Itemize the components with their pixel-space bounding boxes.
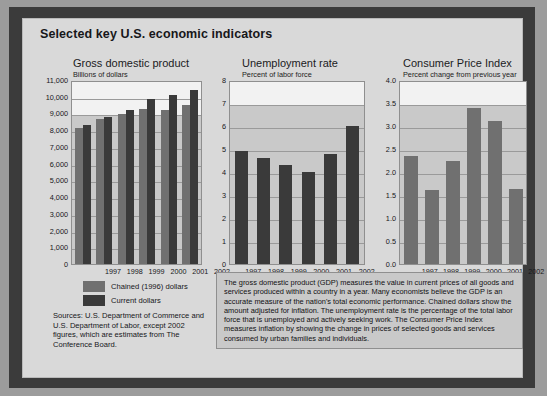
- chart-panel: Selected key U.S. economic indicators Gr…: [22, 18, 523, 378]
- bar-group: [275, 82, 297, 264]
- bar-series-container: [72, 82, 201, 264]
- y-tick-label: 4.0: [386, 77, 396, 85]
- legend-swatch-current: [83, 295, 105, 306]
- plot-wrapper-gdp: 11,00010,0009,0008,0007,0006,0005,0004,0…: [40, 81, 205, 276]
- y-tick-label: 2,000: [50, 228, 68, 236]
- plot-wrapper-unemployment: 876543210 199719981999200020012002: [216, 81, 368, 276]
- bar: [190, 90, 198, 264]
- y-tick-label: 11,000: [46, 77, 68, 85]
- x-axis-gdp: 199719981999200020012002: [102, 267, 233, 276]
- chart-title-unemployment: Unemployment rate: [242, 57, 368, 69]
- y-tick-label: 6: [222, 123, 226, 131]
- bar: [139, 109, 147, 264]
- bar: [182, 105, 190, 264]
- chart-subtitle-gdp: Billions of dollars: [73, 70, 205, 79]
- chart-gross-domestic-product: Gross domestic product Billions of dolla…: [40, 57, 205, 276]
- bar: [235, 151, 248, 264]
- bar: [324, 154, 337, 264]
- y-tick-label: 0.5: [386, 238, 396, 246]
- bar: [104, 117, 112, 264]
- bar: [404, 156, 418, 264]
- bar-group: [137, 82, 159, 264]
- plot-area-unemployment: [229, 81, 365, 265]
- x-tick-label: 2002: [526, 267, 547, 276]
- bar: [83, 125, 91, 264]
- chart-unemployment-rate: Unemployment rate Percent of labor force…: [216, 57, 368, 276]
- bar: [467, 108, 481, 264]
- legend: Chained (1996) dollars Current dollars: [83, 281, 188, 309]
- bar: [279, 165, 292, 264]
- y-tick-label: 8: [222, 77, 226, 85]
- bar-group: [342, 82, 364, 264]
- bar: [425, 190, 439, 264]
- y-tick-label: 3.0: [386, 123, 396, 131]
- bar-group: [252, 82, 274, 264]
- bar: [169, 95, 177, 264]
- y-tick-label: 4: [222, 169, 226, 177]
- y-tick-label: 0: [222, 261, 226, 269]
- bar-group: [463, 82, 484, 264]
- plot-area-cpi: [399, 81, 527, 265]
- y-tick-label: 9,000: [50, 110, 68, 118]
- x-tick-label: 1999: [146, 267, 168, 276]
- bar-group: [297, 82, 319, 264]
- x-tick-label: 2001: [189, 267, 211, 276]
- y-tick-label: 2.0: [386, 169, 396, 177]
- bar: [147, 99, 155, 264]
- bar-series-container: [230, 82, 364, 264]
- y-tick-label: 7,000: [50, 144, 68, 152]
- bar: [75, 128, 83, 264]
- bar-group: [72, 82, 94, 264]
- y-tick-label: 1.5: [386, 192, 396, 200]
- sources-text: Sources: U.S. Department of Commerce and…: [53, 311, 208, 349]
- plot-wrapper-cpi: 4.03.53.02.52.01.51.00.50.0 199719981999…: [379, 81, 529, 276]
- outer-frame: Selected key U.S. economic indicators Gr…: [9, 7, 535, 388]
- y-tick-label: 1.0: [386, 215, 396, 223]
- y-tick-label: 2.5: [386, 146, 396, 154]
- y-tick-label: 3: [222, 192, 226, 200]
- bar: [257, 158, 270, 264]
- bar: [346, 126, 359, 264]
- y-axis-gdp: 11,00010,0009,0008,0007,0006,0005,0004,0…: [40, 81, 68, 265]
- x-tick-label: 1997: [102, 267, 124, 276]
- y-tick-label: 3,000: [50, 211, 68, 219]
- y-tick-label: 5,000: [50, 177, 68, 185]
- bar: [446, 161, 460, 265]
- bar-group: [115, 82, 137, 264]
- bar: [118, 114, 126, 264]
- bar-group: [442, 82, 463, 264]
- y-tick-label: 3.5: [386, 100, 396, 108]
- bar-group: [319, 82, 341, 264]
- chart-consumer-price-index: Consumer Price Index Percent change from…: [379, 57, 529, 276]
- bar: [302, 172, 315, 264]
- bar-group: [421, 82, 442, 264]
- y-tick-label: 2: [222, 215, 226, 223]
- plot-area-gdp: [71, 81, 202, 265]
- legend-swatch-chained: [83, 281, 105, 292]
- y-tick-label: 1: [222, 238, 226, 246]
- chart-title-gdp: Gross domestic product: [73, 57, 205, 69]
- legend-label-chained: Chained (1996) dollars: [111, 282, 188, 291]
- y-tick-label: 8,000: [50, 127, 68, 135]
- y-axis-cpi: 4.03.53.02.52.01.51.00.50.0: [379, 81, 396, 265]
- bar-group: [505, 82, 526, 264]
- legend-item-current: Current dollars: [83, 295, 188, 306]
- y-tick-label: 0.0: [386, 261, 396, 269]
- bar-series-container: [400, 82, 526, 264]
- bar-group: [484, 82, 505, 264]
- y-tick-label: 5: [222, 146, 226, 154]
- chart-subtitle-unemployment: Percent of labor force: [242, 70, 368, 79]
- bar: [509, 189, 523, 264]
- bar: [96, 119, 104, 264]
- bar-group: [400, 82, 421, 264]
- bar-group: [230, 82, 252, 264]
- legend-label-current: Current dollars: [111, 296, 161, 305]
- bar: [126, 110, 134, 264]
- bar: [161, 110, 169, 264]
- x-tick-label: 2000: [167, 267, 189, 276]
- y-tick-label: 1,000: [50, 244, 68, 252]
- explanatory-note: The gross domestic product (GDP) measure…: [216, 272, 523, 349]
- y-axis-unemployment: 876543210: [216, 81, 226, 265]
- bar-group: [94, 82, 116, 264]
- page-title: Selected key U.S. economic indicators: [40, 27, 272, 41]
